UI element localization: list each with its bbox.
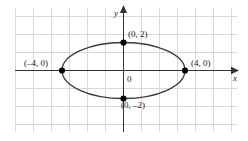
point-left [59,67,65,73]
y-axis [120,5,127,132]
point-top [120,39,126,45]
point-label-right: (4, 0) [191,59,211,68]
point-label-top: (0, 2) [128,30,148,39]
point-right [182,67,188,73]
x-axis-label: x [233,74,237,83]
point-label-left: (–4, 0) [24,59,48,68]
coordinate-plane [0,0,248,141]
origin-label: 0 [127,75,132,84]
y-axis-label: y [114,9,118,18]
point-label-bottom: (0, –2) [121,101,145,110]
graph-figure: (0, 2) (4, 0) (–4, 0) (0, –2) 0 y x [0,0,248,141]
